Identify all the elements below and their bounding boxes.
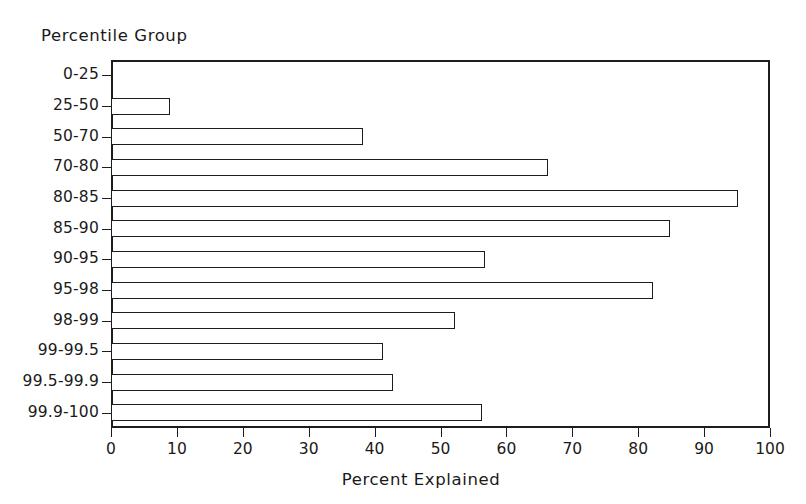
y-axis-tick xyxy=(102,413,111,414)
y-axis-tick-label: 90-95 xyxy=(3,249,99,267)
y-axis-tick-label: 0-25 xyxy=(3,65,99,83)
y-axis-tick-label: 85-90 xyxy=(3,219,99,237)
bar xyxy=(111,251,485,268)
bars-layer xyxy=(111,60,770,428)
bar xyxy=(111,312,455,329)
x-axis-tick xyxy=(309,428,310,437)
x-axis-tick-label: 10 xyxy=(147,440,207,458)
x-axis-tick xyxy=(441,428,442,437)
bar xyxy=(111,98,170,115)
x-axis-tick xyxy=(177,428,178,437)
x-axis-tick-label: 20 xyxy=(213,440,273,458)
bar xyxy=(111,343,383,360)
x-axis-tick-label: 100 xyxy=(740,440,800,458)
y-axis-tick-label: 80-85 xyxy=(3,188,99,206)
bar xyxy=(111,374,393,391)
x-axis-tick-label: 40 xyxy=(345,440,405,458)
y-axis-title: Percentile Group xyxy=(41,26,187,45)
x-axis-tick xyxy=(111,428,112,437)
x-axis-tick xyxy=(704,428,705,437)
y-axis-tick xyxy=(102,75,111,76)
y-axis-tick xyxy=(102,137,111,138)
bar xyxy=(111,190,738,207)
x-axis-tick xyxy=(572,428,573,437)
y-axis-tick-label: 95-98 xyxy=(3,280,99,298)
x-axis-tick xyxy=(375,428,376,437)
y-axis-tick xyxy=(102,259,111,260)
y-axis-tick xyxy=(102,351,111,352)
bar-chart: Percentile Group 0-2525-5050-7070-8080-8… xyxy=(0,0,806,504)
x-axis-tick-label: 70 xyxy=(542,440,602,458)
x-axis-tick-label: 0 xyxy=(81,440,141,458)
bar xyxy=(111,220,670,237)
bar xyxy=(111,128,363,145)
y-axis-tick-label: 99-99.5 xyxy=(3,341,99,359)
x-axis-tick-label: 90 xyxy=(674,440,734,458)
y-axis-tick xyxy=(102,198,111,199)
y-axis-tick xyxy=(102,382,111,383)
x-axis-tick-label: 30 xyxy=(279,440,339,458)
y-axis-tick xyxy=(102,167,111,168)
y-axis-tick-label: 70-80 xyxy=(3,157,99,175)
y-axis-tick-label: 99.5-99.9 xyxy=(3,372,99,390)
x-axis-tick-label: 80 xyxy=(608,440,668,458)
x-axis-tick-label: 60 xyxy=(476,440,536,458)
y-axis-tick xyxy=(102,229,111,230)
y-axis-tick-label: 99.9-100 xyxy=(3,403,99,421)
y-axis-tick-label: 98-99 xyxy=(3,311,99,329)
bar xyxy=(111,282,653,299)
y-axis-tick-label: 25-50 xyxy=(3,96,99,114)
y-axis-tick-label: 50-70 xyxy=(3,127,99,145)
bar xyxy=(111,404,482,421)
x-axis-title-container: Percent Explained xyxy=(0,470,806,489)
y-axis-tick xyxy=(102,321,111,322)
x-axis-tick xyxy=(506,428,507,437)
bar xyxy=(111,159,548,176)
x-axis-title: Percent Explained xyxy=(342,470,501,489)
x-axis-tick xyxy=(770,428,771,437)
y-axis-tick xyxy=(102,290,111,291)
x-axis-tick-label: 50 xyxy=(411,440,471,458)
y-axis-tick xyxy=(102,106,111,107)
x-axis-tick xyxy=(638,428,639,437)
x-axis-tick xyxy=(243,428,244,437)
